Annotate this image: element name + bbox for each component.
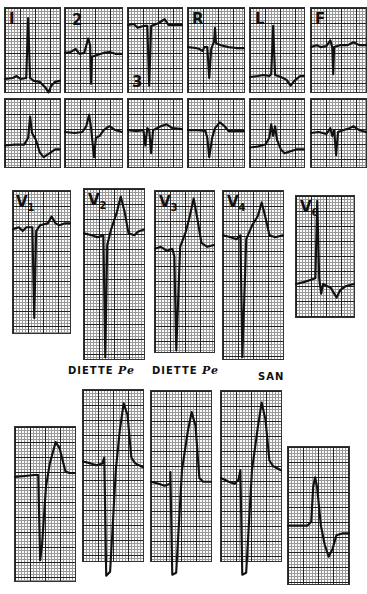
ecg-panel-lead-F-b bbox=[310, 98, 367, 168]
caption-text: SAN bbox=[258, 371, 284, 382]
lead-label: V4 bbox=[227, 195, 246, 213]
ecg-panel-lead-2: 2 bbox=[64, 7, 123, 93]
ecg-panel-precordial-5 bbox=[287, 446, 350, 585]
ecg-panel-precordial-2 bbox=[82, 389, 144, 562]
ecg-panel-lead-R: R bbox=[187, 7, 245, 93]
ecg-panel-lead-I: I bbox=[4, 7, 61, 93]
ecg-trace bbox=[84, 189, 144, 359]
lead-label: V6 bbox=[300, 200, 319, 218]
ecg-trace bbox=[221, 391, 281, 561]
ecg-panel-lead-V3: V3 bbox=[154, 190, 215, 353]
ecg-panel-lead-V1: V1 bbox=[12, 190, 71, 334]
lead-label: V3 bbox=[159, 195, 178, 213]
caption-text: DIETTE Pe bbox=[68, 364, 135, 377]
lead-label: V2 bbox=[88, 193, 107, 211]
lead-label: R bbox=[192, 12, 204, 27]
ecg-panel-lead-L: L bbox=[249, 7, 305, 93]
lead-label: 2 bbox=[72, 13, 82, 28]
ecg-trace bbox=[151, 391, 211, 561]
ecg-trace bbox=[223, 191, 283, 359]
ecg-trace bbox=[155, 191, 214, 352]
ecg-panel-lead-V6: V6 bbox=[295, 195, 355, 318]
ecg-panel-lead-V2: V2 bbox=[83, 188, 145, 360]
ecg-trace bbox=[288, 447, 349, 584]
lead-label: F bbox=[315, 12, 325, 27]
ecg-trace bbox=[83, 390, 143, 561]
ecg-panel-lead-2-b bbox=[64, 98, 123, 168]
ecg-panel-precordial-1 bbox=[14, 426, 76, 582]
ecg-trace bbox=[311, 99, 366, 167]
ecg-panel-lead-I-b bbox=[4, 98, 61, 168]
ecg-panel-lead-L-b bbox=[249, 98, 305, 168]
lead-label: 3 bbox=[132, 75, 142, 90]
ecg-trace bbox=[250, 99, 304, 167]
caption-text: DIETTE Pe bbox=[152, 364, 219, 377]
lead-label: L bbox=[255, 12, 265, 27]
lead-label: I bbox=[9, 12, 15, 27]
ecg-panel-precordial-4 bbox=[220, 390, 282, 562]
ecg-panel-lead-3: 3 bbox=[127, 7, 183, 93]
ecg-trace bbox=[65, 99, 122, 167]
ecg-trace bbox=[5, 99, 60, 167]
ecg-trace bbox=[15, 427, 75, 581]
ecg-panel-lead-3-b bbox=[127, 98, 183, 168]
ecg-trace bbox=[128, 99, 182, 167]
ecg-trace bbox=[188, 99, 244, 167]
ecg-panel-lead-F: F bbox=[310, 7, 367, 93]
ecg-panel-precordial-3 bbox=[150, 390, 212, 562]
ecg-panel-lead-R-b bbox=[187, 98, 245, 168]
ecg-panel-lead-V4: V4 bbox=[222, 190, 284, 360]
lead-label: V1 bbox=[16, 195, 35, 213]
